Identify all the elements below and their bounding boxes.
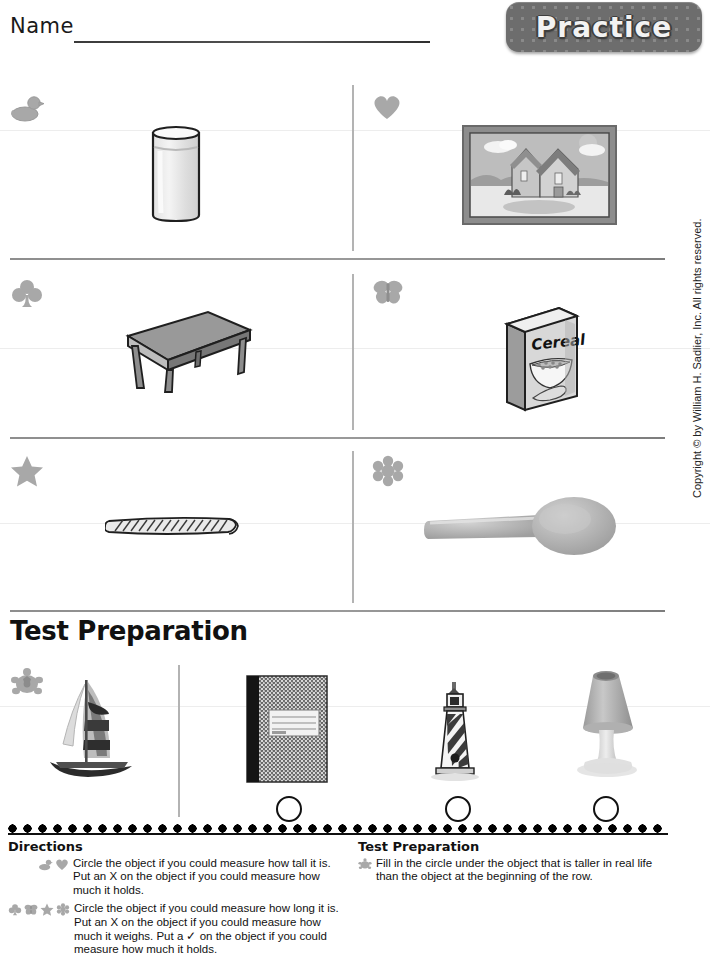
- direction-item: Circle the object if you could measure h…: [8, 902, 348, 956]
- lighthouse-illustration: [430, 682, 480, 784]
- turtle-icon: [358, 858, 372, 871]
- row-1-right-cell: [352, 85, 710, 251]
- name-label: Name: [10, 14, 74, 38]
- flower-icon: [56, 903, 70, 916]
- worksheet-row-1: [0, 85, 710, 251]
- test-prep-directions-heading: Test Preparation: [358, 840, 668, 854]
- duck-icon: [10, 93, 44, 123]
- rope-illustration: [105, 511, 240, 543]
- star-icon: [10, 455, 44, 485]
- name-field-row: Name: [10, 14, 430, 48]
- answer-circle-lighthouse[interactable]: [445, 796, 471, 822]
- row-3-right-cell: [352, 443, 710, 603]
- flower-icon: [372, 455, 406, 485]
- direction-item: Fill in the circle under the object that…: [358, 857, 668, 884]
- spoon-illustration: [422, 493, 622, 563]
- sailboat-illustration: [42, 676, 152, 786]
- worksheet-row-3: [0, 443, 710, 603]
- test-prep-directions-section: Test Preparation Fill in the circle unde…: [358, 840, 668, 889]
- butterfly-icon: [372, 278, 406, 308]
- dotted-separator: [8, 824, 668, 833]
- direction-icons: [358, 857, 372, 884]
- row-3-left-cell: [0, 443, 352, 603]
- copyright-notice: Copyright © by William H. Sadlier, Inc. …: [691, 478, 703, 498]
- framed-house-picture-illustration: [462, 125, 617, 225]
- practice-badge: Practice: [506, 2, 702, 52]
- composition-notebook-illustration: [245, 674, 329, 784]
- duck-icon: [38, 858, 53, 871]
- table-lamp-illustration: [555, 666, 655, 784]
- test-preparation-heading: Test Preparation: [10, 616, 248, 646]
- cereal-box-illustration: Cereal: [497, 302, 587, 412]
- turtle-icon: [10, 668, 44, 698]
- directions-heading: Directions: [8, 840, 348, 854]
- direction-item: Circle the object if you could measure h…: [38, 857, 348, 898]
- direction-icons: [38, 857, 69, 898]
- row-1-left-cell: [0, 85, 352, 251]
- answer-circle-lamp[interactable]: [593, 796, 619, 822]
- direction-text: Circle the object if you could measure h…: [70, 902, 348, 956]
- direction-icons: [8, 902, 70, 956]
- separator-underline: [8, 833, 668, 835]
- direction-text: Fill in the circle under the object that…: [372, 857, 668, 884]
- table-illustration: [110, 304, 255, 394]
- practice-badge-label: Practice: [536, 11, 672, 44]
- test-prep-column-divider: [178, 665, 180, 817]
- heart-icon: [55, 858, 69, 871]
- section-divider: [10, 610, 665, 612]
- star-icon: [40, 903, 54, 916]
- row-2-left-cell: [0, 264, 352, 430]
- glass-of-water-illustration: [145, 125, 207, 225]
- club-icon: [8, 903, 22, 916]
- row-2-right-cell: Cereal: [352, 264, 710, 430]
- answer-circle-notebook[interactable]: [276, 796, 302, 822]
- row-divider-1: [10, 258, 665, 260]
- test-preparation-row: [0, 660, 710, 820]
- directions-section: Directions Circle the object if you coul…: [8, 840, 348, 962]
- worksheet-row-2: Cereal: [0, 264, 710, 430]
- club-icon: [10, 278, 44, 308]
- heart-icon: [372, 93, 406, 123]
- butterfly-icon: [24, 903, 38, 916]
- direction-text: Circle the object if you could measure h…: [69, 857, 348, 898]
- row-divider-2: [10, 437, 665, 439]
- name-write-line[interactable]: [74, 41, 430, 43]
